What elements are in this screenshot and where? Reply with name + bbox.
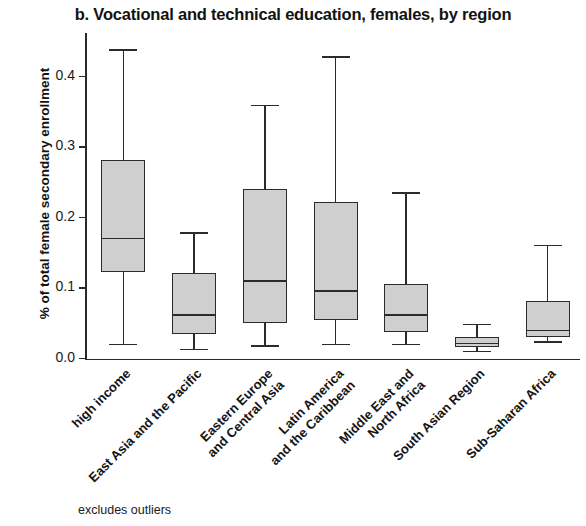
whisker-lower-cap [180,349,208,351]
box-iqr [526,301,570,337]
whisker-upper-stem [123,50,125,160]
y-tick-0.4: 0.4 [79,76,85,78]
median-line [172,314,216,316]
y-tick-0.1: 0.1 [79,287,85,289]
y-axis-line [85,33,87,360]
boxplot-7 [526,33,570,360]
whisker-lower-stem [264,323,266,346]
x-tick-label-4: Latin Americaand the Caribbean [166,366,358,526]
median-line [526,330,570,332]
chart-title: b. Vocational and technical education, f… [0,5,586,24]
whisker-upper-cap [109,49,137,51]
median-line [314,290,358,292]
x-tick-label-2: East Asia and the Pacific [24,366,205,526]
x-tick-label-line: Latin America [166,366,347,526]
plot-area: 0.00.10.20.30.4 [85,33,580,360]
box-iqr [101,160,145,272]
whisker-upper-cap [180,232,208,234]
x-tick-label-line: and the Caribbean [177,377,358,526]
x-tick-label-line: Eastern Europe [95,366,276,526]
x-tick-label-3: Eastern Europeand Central Asia [95,366,287,526]
whisker-lower-cap [322,344,350,346]
box-iqr [243,189,287,324]
whisker-upper-cap [251,105,279,107]
x-tick-label-line: North Africa [248,377,429,526]
whisker-lower-stem [123,272,125,345]
y-tick-label: 0.0 [56,349,75,365]
chart-footnote: excludes outliers [78,503,171,517]
whisker-lower-stem [335,320,337,344]
boxplot-6 [455,33,499,360]
whisker-lower-cap [392,344,420,346]
whisker-upper-cap [534,245,562,247]
whisker-lower-cap [534,341,562,343]
whisker-upper-stem [547,246,549,301]
boxplot-2 [172,33,216,360]
whisker-upper-cap [322,56,350,58]
whisker-upper-stem [476,325,478,337]
y-tick-0.0: 0.0 [79,358,85,360]
whisker-lower-stem [193,334,195,350]
x-tick-label-7: Sub-Saharan Africa [378,366,559,526]
whisker-lower-cap [251,345,279,347]
whisker-upper-stem [193,233,195,273]
whisker-lower-cap [109,344,137,346]
boxplot-5 [384,33,428,360]
boxplot-1 [101,33,145,360]
box-iqr [455,337,499,347]
x-tick-label-line: South Asian Region [307,366,488,526]
y-axis-title: % of total female secondary enrollment [36,64,53,324]
y-tick-label: 0.2 [56,208,75,224]
x-tick-label-line: high income [0,366,135,526]
box-iqr [384,284,428,331]
whisker-upper-cap [392,192,420,194]
median-line [243,280,287,282]
box-iqr [314,202,358,320]
y-tick-label: 0.3 [56,137,75,153]
median-line [384,314,428,316]
chart-figure: b. Vocational and technical education, f… [0,0,586,526]
x-tick-label-line: Sub-Saharan Africa [378,366,559,526]
x-tick-label-line: Middle East and [236,366,417,526]
box-iqr [172,273,216,334]
whisker-lower-cap [463,351,491,353]
median-line [455,343,499,345]
y-tick-0.2: 0.2 [79,217,85,219]
y-tick-label: 0.4 [56,67,75,83]
boxplot-3 [243,33,287,360]
x-tick-label-5: Middle East andNorth Africa [236,366,428,526]
x-tick-label-6: South Asian Region [307,366,488,526]
x-tick-label-1: high income [0,366,135,526]
whisker-upper-stem [335,57,337,202]
whisker-lower-stem [405,332,407,345]
whisker-upper-stem [264,105,266,188]
x-tick-label-line: East Asia and the Pacific [24,366,205,526]
y-tick-label: 0.1 [56,278,75,294]
whisker-upper-cap [463,324,491,326]
boxplot-4 [314,33,358,360]
median-line [101,238,145,240]
y-tick-0.3: 0.3 [79,146,85,148]
whisker-upper-stem [405,193,407,285]
